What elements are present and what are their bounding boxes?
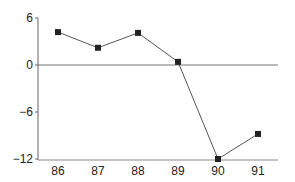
- x-tick-label: 87: [91, 164, 105, 178]
- y-tick-label: −12: [13, 152, 34, 166]
- series-line: [58, 32, 258, 159]
- data-point-marker: [175, 59, 181, 65]
- y-tick-label: 6: [26, 11, 33, 25]
- x-tick-label: 88: [131, 164, 145, 178]
- line-chart: 60−6−12 868788899091: [0, 0, 295, 182]
- data-point-marker: [255, 131, 261, 137]
- y-tick-label: 0: [26, 58, 33, 72]
- x-ticks: 868788899091: [51, 164, 265, 178]
- y-tick-label: −6: [19, 105, 33, 119]
- x-tick-label: 90: [211, 164, 225, 178]
- data-point-marker: [95, 45, 101, 51]
- x-tick-label: 91: [251, 164, 265, 178]
- data-point-marker: [215, 156, 221, 162]
- x-tick-label: 89: [171, 164, 185, 178]
- series-markers: [55, 29, 261, 162]
- data-point-marker: [135, 30, 141, 36]
- x-tick-label: 86: [51, 164, 65, 178]
- y-ticks: 60−6−12: [13, 11, 38, 166]
- data-point-marker: [55, 29, 61, 35]
